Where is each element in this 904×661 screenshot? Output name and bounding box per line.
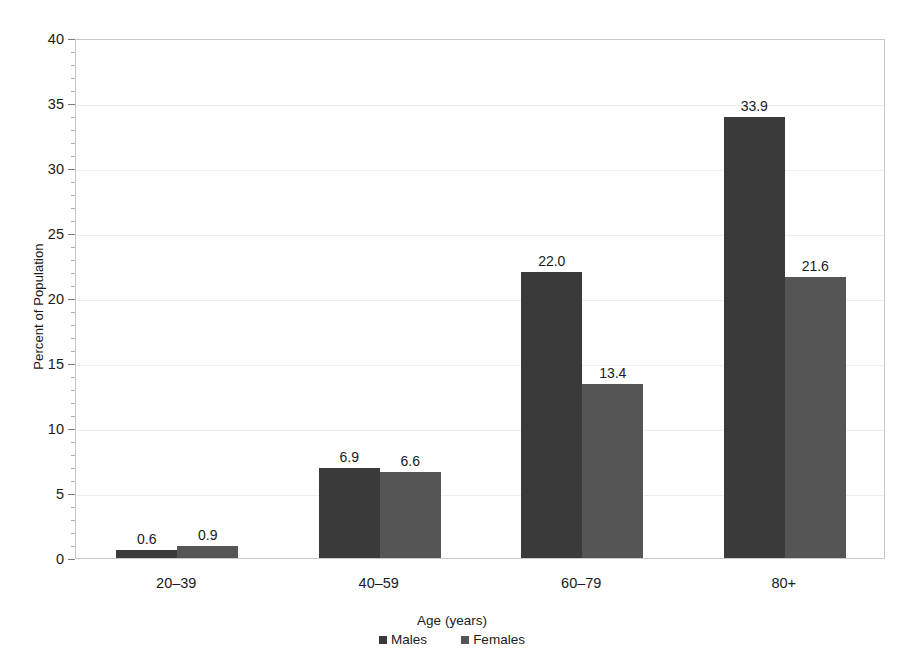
bar-females-0 xyxy=(177,546,238,558)
y-axis-tick-labels: 0510152025303540 xyxy=(0,0,64,661)
bar-males-0 xyxy=(116,550,177,558)
y-axis-tick-label: 0 xyxy=(12,551,64,567)
y-axis-major-tick xyxy=(68,234,75,235)
y-axis-tick-label: 20 xyxy=(12,291,64,307)
legend-label: Males xyxy=(391,632,427,647)
bar-value-label: 13.4 xyxy=(599,365,626,381)
y-axis-major-tick xyxy=(68,364,75,365)
y-axis-major-tick xyxy=(68,104,75,105)
y-axis-tick-label: 30 xyxy=(12,161,64,177)
y-axis-tick-label: 40 xyxy=(12,31,64,47)
y-axis-major-tick xyxy=(68,559,75,560)
chart-legend: MalesFemales xyxy=(0,632,904,647)
bar-females-1 xyxy=(380,472,441,558)
bar-value-label: 21.6 xyxy=(802,258,829,274)
bar-value-label: 22.0 xyxy=(538,253,565,269)
plot-area: 0.60.96.96.622.013.433.921.6 xyxy=(75,39,885,559)
x-axis-title: Age (years) xyxy=(0,613,904,628)
y-axis-major-tick xyxy=(68,169,75,170)
y-axis-major-tick xyxy=(68,429,75,430)
chart-figure: Percent of Population 0510152025303540 0… xyxy=(0,0,904,661)
x-axis-category-label: 60–79 xyxy=(561,575,601,591)
legend-item-males[interactable]: Males xyxy=(379,632,427,647)
bar-females-2 xyxy=(582,384,643,558)
bar-value-label: 0.6 xyxy=(137,531,156,547)
bar-value-label: 0.9 xyxy=(198,527,217,543)
bar-value-label: 6.6 xyxy=(401,453,420,469)
bar-value-label: 6.9 xyxy=(340,449,359,465)
legend-item-females[interactable]: Females xyxy=(461,632,525,647)
x-axis-category-label: 20–39 xyxy=(156,575,196,591)
y-axis-major-tick xyxy=(68,39,75,40)
y-axis-major-tick xyxy=(68,299,75,300)
bar-males-1 xyxy=(319,468,380,558)
x-axis-category-label: 80+ xyxy=(771,575,796,591)
y-axis-tick-label: 5 xyxy=(12,486,64,502)
y-axis-tick-label: 35 xyxy=(12,96,64,112)
y-axis-tick-label: 15 xyxy=(12,356,64,372)
y-axis-tick-label: 10 xyxy=(12,421,64,437)
bar-value-label: 33.9 xyxy=(741,98,768,114)
legend-swatch-icon xyxy=(379,636,387,644)
x-axis-category-label: 40–59 xyxy=(359,575,399,591)
legend-label: Females xyxy=(473,632,525,647)
bar-females-3 xyxy=(785,277,846,558)
legend-swatch-icon xyxy=(461,636,469,644)
bar-males-2 xyxy=(521,272,582,558)
y-axis-major-tick xyxy=(68,494,75,495)
bar-males-3 xyxy=(724,117,785,558)
y-axis-tick-label: 25 xyxy=(12,226,64,242)
